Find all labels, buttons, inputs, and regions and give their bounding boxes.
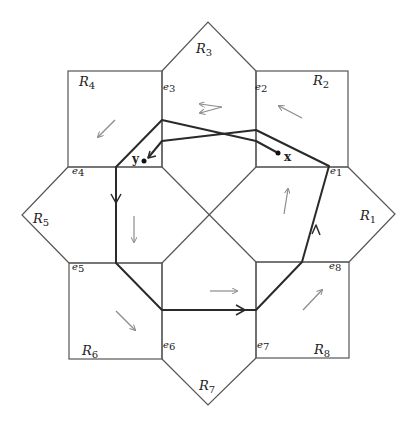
region-base: R (199, 378, 209, 393)
region-base: R (33, 211, 43, 226)
edge-sub: 1 (336, 167, 342, 178)
region-label-r6: R6 (82, 344, 98, 360)
edge-sub: 7 (263, 341, 269, 352)
square-r8 (256, 262, 349, 358)
diagram-canvas: R3 R4 R2 R5 R1 R6 R8 R7 e3 e2 e4 e1 e5 e… (0, 0, 416, 427)
region-label-r7: R7 (199, 379, 215, 395)
region-sub: 6 (92, 349, 98, 360)
flow-arrow-r3a (200, 104, 222, 107)
region-sub: 8 (324, 348, 330, 359)
region-label-r8: R8 (314, 343, 330, 359)
flow-arrow-r8 (303, 290, 322, 310)
region-base: R (82, 343, 92, 358)
diagram-graphic (0, 0, 416, 427)
region-label-r2: R2 (313, 74, 329, 90)
edge-label-e4: e4 (72, 166, 84, 178)
region-sub: 7 (209, 384, 215, 395)
edge-sub: 6 (169, 341, 175, 352)
edge-sub: 3 (169, 83, 175, 94)
region-label-r3: R3 (196, 42, 212, 58)
flow-arrows (98, 104, 322, 330)
edge-sub: 2 (261, 83, 267, 94)
region-sub: 1 (370, 214, 376, 225)
flow-arrow-r6 (116, 311, 135, 330)
region-base: R (196, 41, 206, 56)
region-base: R (79, 74, 89, 89)
region-base: R (360, 208, 370, 223)
region-sub: 4 (89, 80, 95, 91)
point-x-dot (276, 151, 281, 156)
edge-label-e1: e1 (330, 166, 342, 178)
point-label-x: x (284, 151, 291, 163)
flow-arrow-r3b (200, 107, 222, 113)
region-sub: 2 (323, 79, 329, 90)
edge-label-e7: e7 (257, 340, 269, 352)
region-base: R (313, 73, 323, 88)
edge-label-e2: e2 (255, 82, 267, 94)
point-label-y: y (132, 153, 139, 165)
region-label-r1: R1 (360, 209, 376, 225)
inner-structure (68, 71, 349, 359)
region-base: R (314, 342, 324, 357)
trajectory-path (111, 120, 329, 315)
region-label-r4: R4 (79, 75, 95, 91)
flow-arrow-right-mid (284, 189, 288, 214)
region-label-r5: R5 (33, 212, 49, 228)
region-sub: 3 (206, 47, 212, 58)
edge-label-e8: e8 (329, 261, 341, 273)
flow-arrow-r2 (279, 106, 302, 118)
edge-sub: 4 (78, 167, 84, 178)
path-arrow-up (312, 225, 320, 235)
edge-label-e3: e3 (163, 82, 175, 94)
edge-sub: 5 (78, 263, 84, 274)
flow-arrow-r4 (98, 120, 115, 137)
edge-sub: 8 (335, 262, 341, 273)
edge-label-e5: e5 (72, 262, 84, 274)
edge-label-e6: e6 (163, 340, 175, 352)
point-y-dot (142, 159, 147, 164)
region-sub: 5 (43, 217, 49, 228)
